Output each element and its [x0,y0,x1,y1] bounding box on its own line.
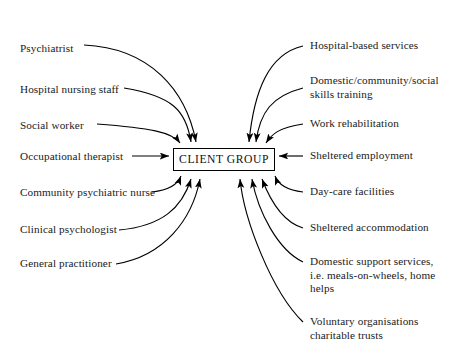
connector-social-worker [97,124,180,143]
connector-day-care-facilities [275,176,303,192]
node-label-social-worker: Social worker [20,119,84,133]
node-label-domestic-community-social-skills-training: Domestic/community/social skills trainin… [310,74,439,101]
connector-domestic-community-social-skills-training [256,88,303,142]
central-node-label: CLIENT GROUP [179,153,269,166]
connector-work-rehabilitation [266,124,303,143]
node-label-domestic-support-services: Domestic support services, i.e. meals-on… [310,255,435,296]
node-label-sheltered-accommodation: Sheltered accommodation [310,221,429,235]
node-label-work-rehabilitation: Work rehabilitation [310,117,399,131]
node-label-hospital-nursing-staff: Hospital nursing staff [20,83,119,97]
node-label-hospital-based-services: Hospital-based services [310,39,418,53]
node-label-day-care-facilities: Day-care facilities [310,185,394,199]
connector-community-psychiatric-nurse [152,176,181,192]
connector-sheltered-accommodation [262,179,303,228]
node-label-general-practitioner: General practitioner [20,257,112,271]
connector-hospital-based-services [249,46,303,142]
node-label-occupational-therapist: Occupational therapist [20,150,123,164]
central-node-client-group: CLIENT GROUP [173,148,275,171]
node-label-clinical-psychologist: Clinical psychologist [20,223,117,237]
connector-hospital-nursing-staff [124,88,191,142]
node-label-sheltered-employment: Sheltered employment [310,149,413,163]
node-label-psychiatrist: Psychiatrist [20,42,73,56]
diagram-canvas: Psychiatrist Hospital nursing staff Soci… [0,0,459,359]
node-label-voluntary-organisations: Voluntary organisations charitable trust… [310,315,418,342]
node-label-community-psychiatric-nurse: Community psychiatric nurse [20,186,155,200]
